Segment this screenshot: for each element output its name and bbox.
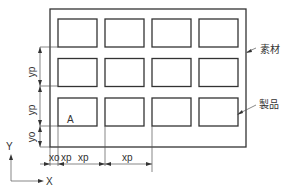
nesting-diagram: A 素材 製品 yp yp yo xo xp xp xp Y X — [0, 0, 288, 191]
dim-arrow — [99, 162, 105, 166]
dim-arrow — [38, 86, 42, 92]
material-leader-arrow — [246, 49, 252, 53]
x-offset-label: xo — [49, 152, 60, 163]
dim-arrow — [38, 126, 42, 132]
x-axis-arrow — [38, 179, 44, 183]
product-r2-c3 — [152, 59, 191, 87]
dim-arrow — [105, 162, 111, 166]
y-offset-label: yo — [26, 131, 37, 142]
y-pitch-label-1: yp — [26, 66, 37, 77]
product-r1-c2 — [105, 19, 144, 47]
product-r1-c4 — [199, 19, 238, 47]
product-r3-c4 — [199, 98, 238, 126]
product-r3-c2 — [105, 98, 144, 126]
dim-arrow — [146, 162, 152, 166]
y-axis-label: Y — [6, 141, 13, 152]
x-pitch-label-2: xp — [78, 152, 89, 163]
product-r1-c3 — [152, 19, 191, 47]
product-r3-c1 — [58, 98, 97, 126]
material-label: 素材 — [260, 43, 280, 55]
y-pitch-label-2: yp — [26, 104, 37, 115]
product-grid — [58, 19, 238, 126]
product-r3-c3 — [152, 98, 191, 126]
dim-arrow — [38, 80, 42, 86]
x-pitch-label-1: xp — [61, 152, 72, 163]
y-axis-arrow — [9, 154, 13, 160]
dim-arrow — [38, 47, 42, 53]
product-r1-c1 — [58, 19, 97, 47]
product-r2-c1 — [58, 59, 97, 87]
x-axis-label: X — [46, 176, 53, 187]
x-pitch-label-3: xp — [122, 152, 133, 163]
product-label: 製品 — [259, 98, 279, 110]
dim-arrow — [38, 141, 42, 147]
product-r2-c2 — [105, 59, 144, 87]
product-r2-c4 — [199, 59, 238, 87]
product-a-label: A — [67, 114, 74, 125]
dim-arrow — [38, 120, 42, 126]
